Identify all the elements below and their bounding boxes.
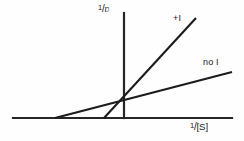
line-plus-inhibitor bbox=[104, 18, 196, 118]
x-axis-denominator: [S] bbox=[196, 121, 208, 132]
plot-canvas bbox=[0, 0, 244, 141]
y-axis-label: 1/ʋ bbox=[98, 4, 109, 14]
x-axis-label: 1/[S] bbox=[190, 122, 208, 132]
series-label-no-inhibitor: no I bbox=[203, 58, 219, 67]
series-label-plus-inhibitor: +I bbox=[173, 14, 181, 23]
lineweaver-burk-figure: 1/ʋ 1/[S] +I no I bbox=[0, 0, 244, 141]
y-axis-denominator: ʋ bbox=[104, 3, 109, 14]
line-no-inhibitor bbox=[55, 72, 232, 118]
